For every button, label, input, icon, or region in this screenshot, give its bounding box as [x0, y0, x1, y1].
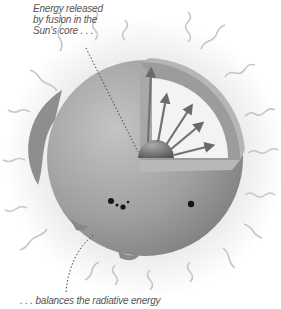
sun-diagram: [0, 0, 281, 309]
label-radiative: . . . balances the radiative energy: [20, 295, 220, 306]
label-fusion: Energy released by fusion in the Sun's c…: [33, 3, 115, 36]
